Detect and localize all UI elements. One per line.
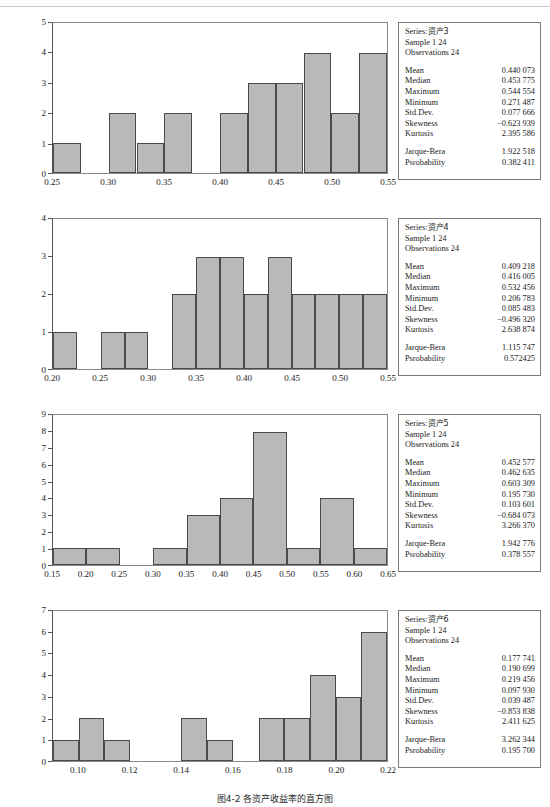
std-dev-value: 0.085 483: [502, 304, 535, 315]
histogram-figure-stack: 0123450.250.300.350.400.450.500.55Series…: [0, 14, 550, 798]
plot-area: [52, 218, 388, 370]
y-axis-tick-label: 2: [42, 290, 47, 299]
mean-row: Mean0.452 577: [405, 458, 535, 469]
x-axis-tick-label: 0.40: [212, 178, 228, 187]
minimum-label: Minimum: [405, 490, 442, 501]
histogram-bar: [268, 257, 292, 370]
jarque-bera-row: Jarque-Bera1.115 747: [405, 343, 535, 354]
kurtosis-label: Kurtosis: [405, 717, 437, 728]
median-value: 0.453 775: [502, 76, 535, 87]
median-value: 0.462 635: [502, 468, 535, 479]
sample-range-value: 1 24: [432, 38, 447, 47]
median-label: Median: [405, 468, 434, 479]
maximum-row: Maximum0.219 456: [405, 675, 535, 686]
y-axis-tick-label: 1: [42, 139, 47, 148]
x-axis-tick-label: 0.16: [225, 766, 241, 775]
minimum-label: Minimum: [405, 98, 442, 109]
kurtosis-label: Kurtosis: [405, 521, 437, 532]
jarque-bera-row: Jarque-Bera1.922 518: [405, 147, 535, 158]
y-axis: 01234: [20, 218, 52, 370]
histogram-bar: [315, 294, 339, 369]
skewness-row: Skewness−0.853 838: [405, 707, 535, 718]
plot-area: [52, 610, 388, 762]
histogram-panel: 012340.200.250.300.350.400.450.500.55Ser…: [0, 210, 550, 406]
y-axis-tick-label: 3: [42, 692, 47, 701]
histogram-bar: [259, 718, 285, 761]
skewness-row: Skewness−0.496 320: [405, 315, 535, 326]
y-axis-tick-label: 4: [42, 671, 47, 680]
histogram-bar: [164, 113, 192, 173]
skewness-label: Skewness: [405, 315, 442, 326]
histogram-chart: 01234567890.150.200.250.300.350.400.450.…: [20, 414, 388, 588]
series-name: Series:资产4: [405, 223, 535, 234]
median-value: 0.190 699: [502, 664, 535, 675]
histogram-bar: [172, 294, 196, 369]
maximum-label: Maximum: [405, 675, 444, 686]
observation-count-label: Observations: [405, 440, 451, 449]
kurtosis-row: Kurtosis2.411 625: [405, 717, 535, 728]
sample-range-value: 1 24: [432, 626, 447, 635]
series-name: Series:资产6: [405, 615, 535, 626]
sample-range: Sample 1 24: [405, 234, 535, 245]
stats-spacer: [405, 59, 535, 66]
y-axis-tick-label: 7: [42, 443, 47, 452]
mean-value: 0.440 073: [502, 66, 535, 77]
median-row: Median0.453 775: [405, 76, 535, 87]
median-label: Median: [405, 76, 434, 87]
minimum-value: 0.195 730: [502, 490, 535, 501]
bar-group: [53, 611, 387, 761]
std-dev-label: Std.Dev.: [405, 696, 438, 707]
mean-row: Mean0.409 218: [405, 262, 535, 273]
histogram-panel: 012345670.100.120.140.160.180.200.22Seri…: [0, 602, 550, 798]
stats-spacer: [405, 728, 535, 735]
statistics-panel: Series:资产3Sample 1 24Observations 24Mean…: [398, 22, 541, 180]
figure-caption: 图4-2 各资产收益率的直方图: [0, 792, 550, 805]
mean-value: 0.409 218: [502, 262, 535, 273]
x-axis-tick-label: 0.35: [179, 570, 195, 579]
mean-label: Mean: [405, 654, 428, 665]
histogram-bar: [276, 83, 304, 173]
std-dev-value: 0.039 487: [502, 696, 535, 707]
statistics-panel: Series:资产5Sample 1 24Observations 24Mean…: [398, 414, 541, 572]
kurtosis-value: 2.638 874: [502, 325, 535, 336]
mean-value: 0.452 577: [502, 458, 535, 469]
x-axis: 0.150.200.250.300.350.400.450.500.550.60…: [52, 566, 388, 586]
sample-range-value: 1 24: [432, 234, 447, 243]
x-axis-tick-label: 0.45: [268, 178, 284, 187]
maximum-row: Maximum0.544 554: [405, 87, 535, 98]
probability-row: Psrobability0.195 700: [405, 746, 535, 757]
x-axis: 0.250.300.350.400.450.500.55: [52, 174, 388, 194]
statistics-panel: Series:资产6Sample 1 24Observations 24Mean…: [398, 610, 541, 768]
y-axis-tick-label: 6: [42, 460, 47, 469]
x-axis-tick-label: 0.45: [246, 570, 262, 579]
histogram-bar: [53, 548, 86, 565]
bar-group: [53, 219, 387, 369]
sample-range: Sample 1 24: [405, 430, 535, 441]
x-axis: 0.200.250.300.350.400.450.500.55: [52, 370, 388, 390]
std-dev-row: Std.Dev.0.039 487: [405, 696, 535, 707]
x-axis-tick-label: 0.45: [284, 374, 300, 383]
x-axis-tick-label: 0.40: [236, 374, 252, 383]
sample-range-label: Sample: [405, 38, 432, 47]
y-axis-tick-label: 5: [42, 649, 47, 658]
jarque-bera-row: Jarque-Bera3.262 344: [405, 735, 535, 746]
y-axis-tick-label: 1: [42, 328, 47, 337]
histogram-bar: [53, 143, 81, 173]
median-row: Median0.190 699: [405, 664, 535, 675]
histogram-bar: [248, 83, 276, 173]
histogram-bar: [292, 294, 316, 369]
observation-count-label: Observations: [405, 244, 451, 253]
kurtosis-row: Kurtosis3.266 370: [405, 521, 535, 532]
histogram-bar: [79, 718, 105, 761]
skewness-row: Skewness−0.623 939: [405, 119, 535, 130]
series-name-value: 资产5: [428, 419, 449, 428]
std-dev-row: Std.Dev.0.085 483: [405, 304, 535, 315]
maximum-value: 0.544 554: [502, 87, 535, 98]
maximum-label: Maximum: [405, 283, 444, 294]
plot-area: [52, 22, 388, 174]
observation-count-label: Observations: [405, 636, 451, 645]
skewness-value: −0.496 320: [497, 315, 535, 326]
y-axis-tick-label: 3: [42, 78, 47, 87]
y-axis-tick-label: 1: [42, 736, 47, 745]
probability-row: Psrobability0.572425: [405, 354, 535, 365]
